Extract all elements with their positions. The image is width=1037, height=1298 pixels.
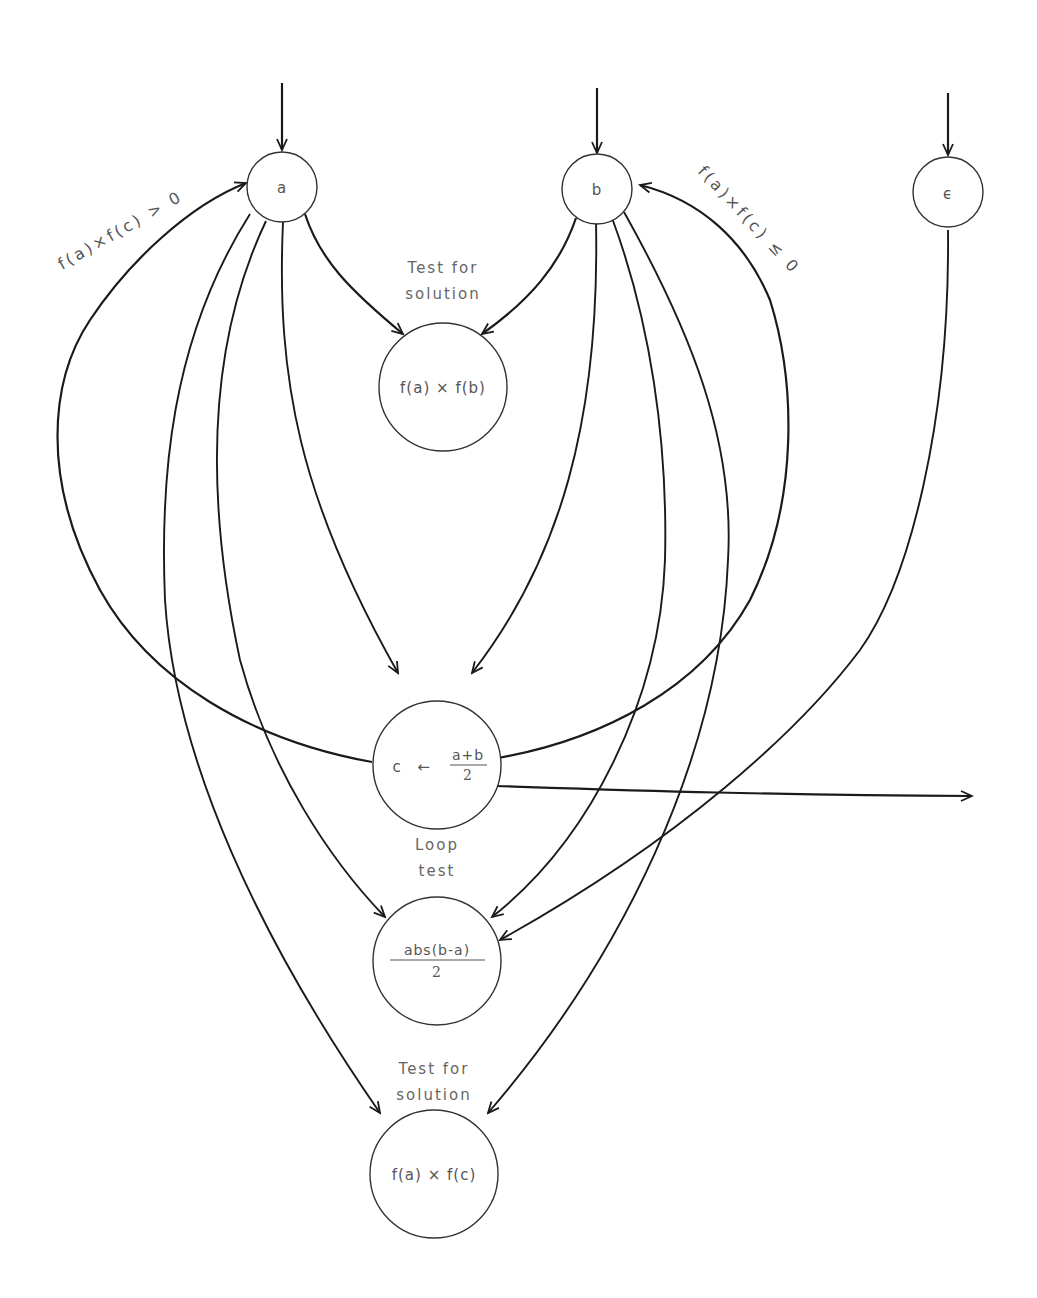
node-epsilon: ϵ bbox=[913, 157, 983, 227]
loop-caption-line1: Loop bbox=[415, 836, 459, 854]
edge-b-test1 bbox=[482, 218, 576, 334]
node-loop-test: Loop test abs(b-a) 2 bbox=[373, 836, 501, 1025]
node-b: b bbox=[562, 154, 632, 224]
dataflow-diagram: f(a)×f(c) > 0 f(a)×f(c) ≤ 0 a b ϵ Test f… bbox=[0, 0, 1037, 1298]
test1-caption-line1: Test for bbox=[407, 259, 479, 277]
node-midpoint: c ← a+b 2 bbox=[373, 701, 501, 829]
midpoint-numerator: a+b bbox=[452, 747, 484, 763]
edge-midpoint-b bbox=[498, 185, 788, 758]
edge-a-loop bbox=[217, 221, 385, 917]
test1-caption-line2: solution bbox=[405, 285, 480, 303]
test2-caption-line2: solution bbox=[396, 1086, 471, 1104]
edge-a-test1 bbox=[305, 214, 403, 334]
loop-caption-line2: test bbox=[419, 862, 456, 880]
edge-midpoint-a bbox=[58, 183, 373, 762]
test2-expression: f(a) × f(c) bbox=[392, 1166, 477, 1184]
node-epsilon-label: ϵ bbox=[943, 185, 953, 203]
edge-a-midpoint bbox=[282, 222, 398, 673]
edge-b-test2 bbox=[488, 212, 729, 1113]
loop-numerator: abs(b-a) bbox=[404, 942, 470, 958]
test2-caption-line1: Test for bbox=[398, 1060, 470, 1078]
node-test-solution-ab: Test for solution f(a) × f(b) bbox=[379, 259, 507, 451]
midpoint-denominator: 2 bbox=[463, 767, 473, 783]
midpoint-lhs: c bbox=[392, 758, 401, 776]
edge-epsilon-loop bbox=[500, 230, 948, 940]
edge-b-loop bbox=[492, 218, 665, 917]
node-b-label: b bbox=[592, 181, 603, 199]
assign-arrow-icon: ← bbox=[417, 758, 431, 776]
test1-expression: f(a) × f(b) bbox=[400, 379, 486, 397]
node-a-label: a bbox=[277, 179, 287, 197]
node-test-solution-ac: Test for solution f(a) × f(c) bbox=[370, 1060, 498, 1238]
edge-midpoint-output bbox=[497, 786, 972, 796]
edge-label-to-a: f(a)×f(c) > 0 bbox=[55, 187, 187, 274]
edge-a-test2 bbox=[164, 214, 380, 1113]
loop-denominator: 2 bbox=[432, 964, 442, 980]
node-a: a bbox=[247, 152, 317, 222]
